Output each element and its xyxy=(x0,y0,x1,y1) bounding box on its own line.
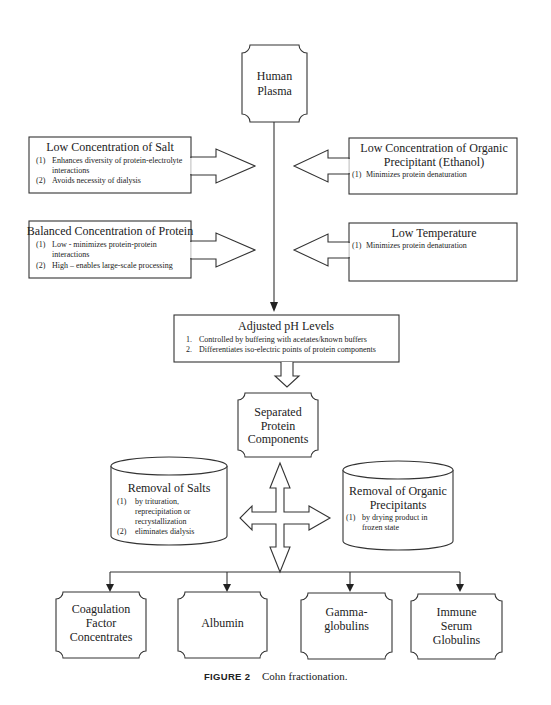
removal-salts-item1-num: (1) xyxy=(117,497,127,506)
condition-protein: Balanced Concentration of Protein (1) Lo… xyxy=(27,221,255,278)
arrowhead-4 xyxy=(456,584,464,592)
four-way-arrow-icon xyxy=(240,463,330,572)
figure-caption: FIGURE 2 Cohn fractionation. xyxy=(204,670,348,682)
arrow-right-icon xyxy=(191,233,255,267)
removal-salts-item1-line3: recrystallization xyxy=(135,517,187,526)
product-gamma-globulins: Gamma- globulins xyxy=(301,593,392,659)
removal-salts-item1-line2: reprecipitation or xyxy=(135,507,191,516)
ph-item2-text: Differentiates iso-electric points of pr… xyxy=(199,345,376,354)
arrowhead-to-ph xyxy=(270,302,278,312)
ph-levels-box: Adjusted pH Levels 1. Controlled by buff… xyxy=(174,315,399,362)
protein-item1-num: (1) xyxy=(36,240,46,249)
product-coagulation-line1: Coagulation xyxy=(72,602,131,616)
removal-organic-item1-line2: frozen state xyxy=(362,523,400,532)
product-albumin: Albumin xyxy=(178,592,267,658)
product-albumin-line1: Albumin xyxy=(201,616,244,630)
removal-salts-cylinder: Removal of Salts (1) by trituration, rep… xyxy=(111,457,227,545)
cohn-fractionation-diagram: Human Plasma Low Concentration of Salt (… xyxy=(0,0,551,705)
separated-label-line3: Components xyxy=(248,432,309,446)
salt-title: Low Concentration of Salt xyxy=(46,140,174,154)
human-plasma-node: Human Plasma xyxy=(242,45,307,122)
organic-item1-line1: Minimizes protein denaturation xyxy=(366,170,467,179)
product-immune-serum-globulins: Immune Serum Globulins xyxy=(411,594,502,659)
arrowhead-3 xyxy=(346,584,354,592)
organic-title-line1: Low Concentration of Organic xyxy=(360,141,507,155)
removal-organic-title-line2: Precipitants xyxy=(370,498,427,512)
protein-item2-num: (2) xyxy=(36,261,46,270)
temperature-item1-num: (1) xyxy=(352,241,362,250)
organic-item1-num: (1) xyxy=(352,170,362,179)
ph-title: Adjusted pH Levels xyxy=(238,319,334,333)
salt-item1-num: (1) xyxy=(36,156,46,165)
product-coagulation-line3: Concentrates xyxy=(70,630,133,644)
condition-salt: Low Concentration of Salt (1) Enhances d… xyxy=(29,137,255,193)
product-gamma-line1: Gamma- xyxy=(326,605,368,619)
arrow-down-icon xyxy=(275,362,299,387)
ph-item1-num: 1. xyxy=(186,335,192,344)
product-immune-line1: Immune xyxy=(437,605,477,619)
arrowhead-1 xyxy=(106,584,114,592)
temperature-title: Low Temperature xyxy=(391,226,476,240)
protein-item1-line2: interactions xyxy=(52,250,89,259)
removal-salts-item2-num: (2) xyxy=(117,527,127,536)
ph-item1-text: Controlled by buffering with acetates/kn… xyxy=(199,335,367,344)
removal-salts-item1-line1: by trituration, xyxy=(135,497,179,506)
separated-label-line1: Separated xyxy=(254,405,301,419)
product-gamma-line2: globulins xyxy=(324,619,369,633)
condition-temperature: Low Temperature (1) Minimizes protein de… xyxy=(294,223,517,281)
removal-organic-item1-line1: by drying product in xyxy=(362,513,428,522)
salt-item2-num: (2) xyxy=(36,176,46,185)
caption-text: Cohn fractionation. xyxy=(262,670,348,682)
caption-figure-number: FIGURE 2 xyxy=(204,671,250,682)
product-immune-line3: Globulins xyxy=(433,633,481,647)
removal-organic-title-line1: Removal of Organic xyxy=(349,484,447,498)
human-plasma-label-line2: Plasma xyxy=(257,84,292,98)
human-plasma-label-line1: Human xyxy=(257,69,292,83)
removal-salts-title: Removal of Salts xyxy=(128,481,211,495)
removal-organic-cylinder: Removal of Organic Precipitants (1) by d… xyxy=(343,461,453,550)
product-coagulation-line2: Factor xyxy=(86,616,117,630)
arrow-left-icon xyxy=(294,234,349,266)
arrow-left-icon xyxy=(294,150,349,182)
salt-item2-line1: Avoids necessity of dialysis xyxy=(52,176,141,185)
protein-title: Balanced Concentration of Protein xyxy=(27,224,193,238)
condition-organic: Low Concentration of Organic Precipitant… xyxy=(294,138,517,194)
product-immune-line2: Serum xyxy=(441,619,473,633)
protein-item2-line1: High – enables large-scale processing xyxy=(52,261,173,270)
separated-label-line2: Protein xyxy=(261,419,296,433)
separated-protein-node: Separated Protein Components xyxy=(238,393,318,457)
arrow-right-icon xyxy=(191,149,255,183)
removal-organic-item1-num: (1) xyxy=(346,513,356,522)
removal-salts-item2-line1: eliminates dialysis xyxy=(135,527,194,536)
protein-item1-line1: Low - minimizes protein-protein xyxy=(52,240,157,249)
organic-title-line2: Precipitant (Ethanol) xyxy=(384,155,484,169)
ph-item2-num: 2. xyxy=(186,345,192,354)
salt-item1-line1: Enhances diversity of protein-electrolyt… xyxy=(52,156,183,165)
salt-item1-line2: interactions xyxy=(52,166,89,175)
temperature-item1-line1: Minimizes protein denaturation xyxy=(366,241,467,250)
arrowhead-2 xyxy=(223,584,231,592)
product-coagulation: Coagulation Factor Concentrates xyxy=(56,592,146,658)
